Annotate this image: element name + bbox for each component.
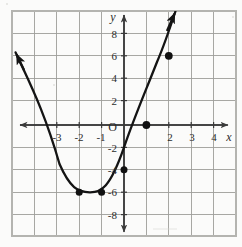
y-tick-label: -6	[108, 186, 118, 198]
point-minus1-minus6[interactable]	[98, 189, 105, 196]
coordinate-plane: -3 -2 -1 2 3 4 8 6 4 2 -2 -4 -6 -8 O x y	[0, 0, 242, 247]
point-minus2-minus6[interactable]	[76, 189, 83, 196]
x-tick-label: -3	[52, 131, 62, 143]
y-tick-label: -4	[108, 164, 118, 176]
y-tick-label: 8	[112, 28, 118, 40]
y-tick-label: -8	[108, 209, 118, 221]
point-2-6[interactable]	[165, 52, 173, 60]
x-tick-label: 3	[189, 131, 195, 143]
x-tick-label: -2	[74, 131, 83, 143]
point-0-minus4[interactable]	[121, 166, 128, 173]
y-tick-label: -2	[108, 142, 117, 154]
y-axis-label: y	[109, 10, 116, 24]
origin-label: O	[108, 120, 117, 134]
x-tick-label: 2	[167, 131, 173, 143]
x-tick-label: 4	[211, 131, 217, 143]
graph-figure: -3 -2 -1 2 3 4 8 6 4 2 -2 -4 -6 -8 O x y	[0, 0, 242, 247]
paper-background	[0, 0, 242, 247]
x-tick-label: -1	[96, 131, 105, 143]
y-tick-label: 2	[112, 95, 118, 107]
x-axis-label: x	[225, 130, 232, 144]
y-tick-label: 4	[112, 72, 118, 84]
y-tick-label: 6	[112, 50, 118, 62]
point-1-0[interactable]	[143, 121, 151, 129]
